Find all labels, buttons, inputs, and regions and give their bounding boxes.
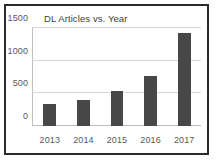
bar-2015[interactable] (111, 91, 124, 126)
y-axis-tick-label: 1000 (8, 46, 28, 56)
x-axis-tick-labels: 20132014201520162017 (33, 135, 201, 145)
bar-slot (167, 28, 201, 126)
y-axis-tick-label: 1500 (8, 13, 28, 23)
x-axis-tick-label: 2015 (100, 135, 134, 145)
bar-slot (67, 28, 101, 126)
y-axis-tick-label: 500 (13, 78, 28, 88)
bar-2013[interactable] (43, 104, 56, 126)
x-axis-tick-label: 2016 (134, 135, 168, 145)
bar-2016[interactable] (144, 76, 157, 126)
plot-area: 050010001500 (32, 28, 201, 126)
bar-slot (33, 28, 67, 126)
x-axis-tick-label: 2017 (167, 135, 201, 145)
bar-2017[interactable] (178, 33, 191, 126)
bar-slot (134, 28, 168, 126)
x-axis-tick-label: 2013 (33, 135, 67, 145)
bar-2014[interactable] (77, 100, 90, 126)
x-axis-tick-label: 2014 (67, 135, 101, 145)
bar-series (33, 28, 201, 126)
chart-title: DL Articles vs. Year (44, 13, 128, 24)
chart-figure: DL Articles vs. Year 050010001500 201320… (4, 4, 209, 155)
bar-slot (100, 28, 134, 126)
y-axis-tick-label: 0 (23, 111, 28, 121)
